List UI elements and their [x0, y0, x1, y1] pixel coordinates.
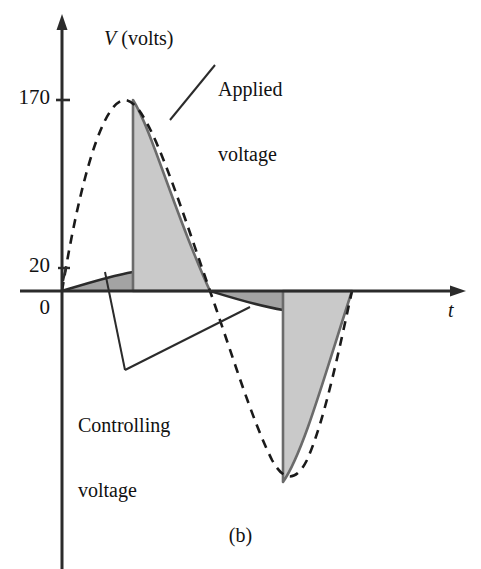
y-axis-unit: (volts) [116, 27, 173, 49]
tick-label-170: 170 [0, 86, 50, 109]
tick-label-0: 0 [0, 296, 50, 319]
y-axis-symbol: V [104, 27, 116, 49]
applied-voltage-annotation-line2: voltage [218, 144, 282, 166]
applied-voltage-positive-pulse [133, 100, 210, 291]
tick-label-20: 20 [0, 254, 50, 277]
controlling-voltage-annotation: Controlling voltage [78, 372, 170, 545]
applied-voltage-leader-line [170, 65, 215, 120]
y-axis-title: V (volts) [84, 6, 173, 71]
controlling-voltage-annotation-line1: Controlling [78, 415, 170, 437]
applied-voltage-annotation-line1: Applied [218, 79, 282, 101]
applied-voltage-annotation: Applied voltage [218, 36, 282, 209]
figure-caption: (b) [0, 524, 481, 547]
controlling-voltage-annotation-line2: voltage [78, 480, 170, 502]
applied-voltage-negative-pulse [283, 291, 352, 482]
y-axis-arrowhead [57, 14, 68, 30]
controlling-voltage-leader-line-negative [125, 307, 250, 370]
voltage-waveform-figure: V (volts) 170 20 0 t Applied voltage Con… [0, 0, 481, 569]
x-axis-arrowhead [450, 286, 466, 297]
x-axis-title: t [448, 300, 454, 322]
